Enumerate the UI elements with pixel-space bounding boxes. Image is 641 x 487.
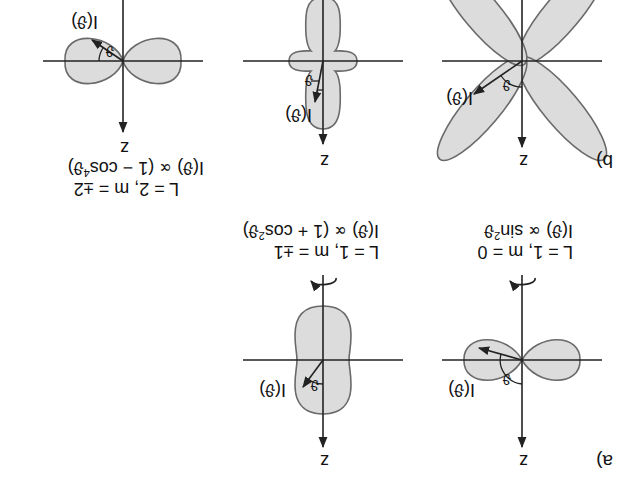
formula-text: I(ϑ) ∝ (1 + cos (265, 221, 379, 241)
a2-angle-label: ϑ (311, 375, 319, 395)
b1-intensity-label: I(ϑ) (446, 88, 473, 108)
b3-intensity-label: I(ϑ) (71, 12, 98, 32)
a2-intensity-label: I(ϑ) (259, 380, 286, 400)
a1-quantum-numbers: L = 1, m = 0 (478, 241, 573, 262)
b3-z-axis-label: z (120, 138, 129, 158)
b1-angle-label: ϑ (503, 75, 511, 95)
formula-text: I(ϑ) ∝ sin (500, 221, 573, 241)
formula-exponent: 2 (494, 230, 500, 242)
a1-z-axis-label: z (519, 451, 528, 471)
formula-text: I(ϑ) ∝ (1 − cos (90, 158, 204, 178)
a1-formula: I(ϑ) ∝ sin2ϑ (484, 220, 573, 241)
panel-b-letter: b) (596, 151, 613, 171)
panel-a-letter: a) (596, 451, 613, 471)
b2-z-axis-label: z (320, 151, 329, 171)
diagram-b2 (243, 0, 403, 144)
figure-canvas: a) b) z I(ϑ) ϑ L = 1, m = 0 I(ϑ) ∝ sin2ϑ… (0, 0, 641, 487)
diagram-b3 (43, 0, 203, 132)
a1-intensity-label: I(ϑ) (448, 380, 475, 400)
diagram-a2 (243, 275, 403, 447)
formula-exponent: 4 (84, 167, 90, 179)
b2-angle-label: ϑ (305, 70, 313, 90)
formula-text: ϑ) (68, 158, 84, 178)
formula-text: ϑ) (243, 221, 259, 241)
a1-angle-label: ϑ (503, 369, 511, 389)
b3-angle-label: ϑ (106, 41, 114, 61)
diagram-b1 (426, 0, 618, 171)
b3-formula: I(ϑ) ∝ (1 − cos4ϑ) (68, 157, 204, 178)
a2-z-axis-label: z (320, 451, 329, 471)
a2-quantum-numbers: L = 1, m = ±1 (274, 241, 379, 262)
a2-formula: I(ϑ) ∝ (1 + cos2ϑ) (243, 220, 379, 241)
formula-text: ϑ (484, 221, 494, 241)
b1-z-axis-label: z (519, 151, 528, 171)
diagram-a1 (442, 275, 602, 447)
b2-intensity-label: I(ϑ) (285, 105, 312, 125)
b3-quantum-numbers: L = 2, m = ±2 (74, 178, 179, 199)
formula-exponent: 2 (259, 230, 265, 242)
